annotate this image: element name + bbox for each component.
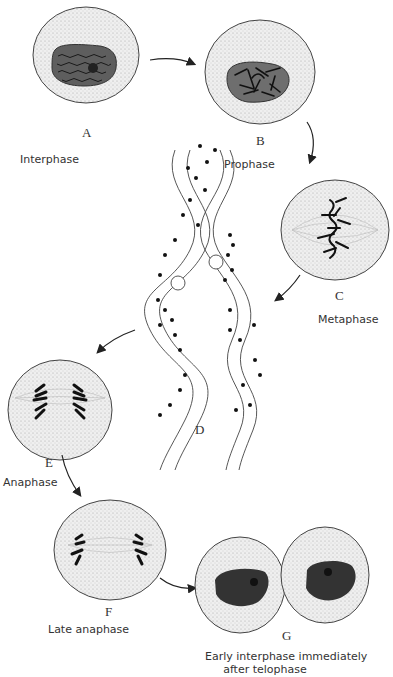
caption-late-anaphase: Late anaphase	[48, 623, 129, 636]
label-b: B	[256, 133, 265, 149]
caption-interphase: Interphase	[20, 153, 79, 166]
cell-f-late-anaphase	[54, 500, 166, 600]
caption-prophase: Prophase	[224, 158, 275, 171]
caption-early-interphase-line1: Early interphase immediately	[205, 650, 365, 663]
label-a: A	[82, 125, 91, 141]
cell-g-daughter-cells	[195, 527, 369, 633]
mitosis-diagram	[0, 0, 393, 677]
caption-early-interphase-line2: after telophase	[205, 663, 325, 676]
label-f: F	[105, 604, 112, 620]
cell-c-metaphase	[281, 180, 389, 280]
label-c: C	[335, 288, 344, 304]
label-d: D	[195, 422, 204, 438]
arrow-f-to-g	[160, 578, 195, 588]
arrow-e-to-f	[62, 455, 80, 495]
caption-anaphase: Anaphase	[3, 476, 57, 489]
cell-e-anaphase	[8, 360, 112, 460]
cell-b-prophase	[205, 20, 315, 124]
arrow-b-to-c	[307, 122, 313, 162]
label-e: E	[45, 455, 53, 471]
arrow-d-to-e	[98, 330, 135, 352]
arrow-c-to-d	[276, 275, 300, 300]
caption-metaphase: Metaphase	[318, 313, 379, 326]
arrow-a-to-b	[150, 59, 194, 64]
cell-a-interphase	[33, 7, 139, 103]
label-g: G	[282, 628, 291, 644]
